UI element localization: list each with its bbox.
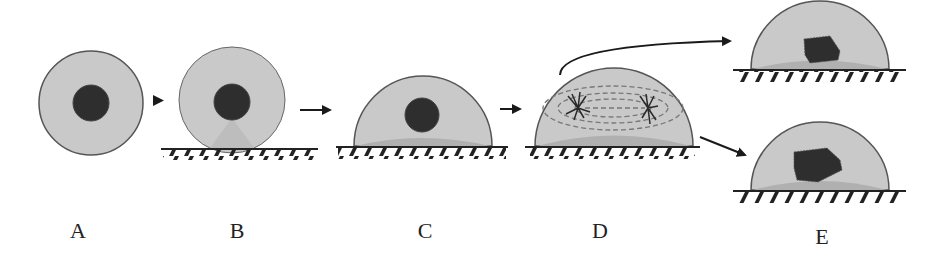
stage-c-cell xyxy=(336,76,508,159)
stage-label-b: B xyxy=(230,218,245,244)
arrow-d-to-e-bottom-icon xyxy=(700,137,745,155)
stage-e-daughter-cell-top xyxy=(733,1,906,82)
nucleus-icon xyxy=(214,84,250,120)
nucleus-icon xyxy=(73,85,109,121)
stage-label-d: D xyxy=(592,218,608,244)
stage-d-cell xyxy=(525,68,700,159)
stage-e-daughter-cell-bottom xyxy=(733,122,906,203)
arrow-a-to-b-icon xyxy=(153,95,164,106)
cell-division-diagram xyxy=(0,0,951,256)
stage-label-c: C xyxy=(418,218,433,244)
stage-a-cell xyxy=(39,51,143,155)
stage-b-cell xyxy=(161,47,318,160)
nucleus-icon xyxy=(405,98,439,132)
arrow-d-to-e-top-icon xyxy=(560,41,730,75)
stage-label-e: E xyxy=(815,224,828,250)
stage-label-a: A xyxy=(70,218,86,244)
